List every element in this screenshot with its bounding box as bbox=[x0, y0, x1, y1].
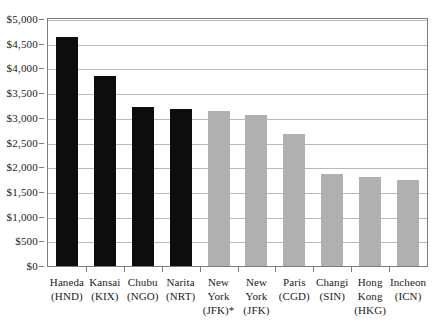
y-tick-mark bbox=[39, 192, 44, 193]
bar-slot-narita bbox=[162, 19, 200, 266]
x-axis-label-line: (JFK)* bbox=[200, 303, 238, 317]
x-axis-label-jfk: NewYork(JFK) bbox=[238, 275, 276, 317]
x-axis-label-line: Hong bbox=[351, 275, 389, 289]
x-axis-label-incheon: Incheon(ICN) bbox=[389, 275, 427, 303]
x-tick-mark bbox=[238, 267, 239, 272]
x-axis-label-kansai: Kansai(KIX) bbox=[86, 275, 124, 303]
x-axis-label-line: Paris bbox=[275, 275, 313, 289]
x-axis-label-line: (JFK) bbox=[238, 303, 276, 317]
y-tick-mark bbox=[39, 143, 44, 144]
y-tick-label: $1,500 bbox=[7, 186, 38, 198]
x-axis-label-line: (KIX) bbox=[86, 289, 124, 303]
x-tick-mark bbox=[351, 267, 352, 272]
x-axis-label-hongkong: HongKong(HKG) bbox=[351, 275, 389, 317]
y-tick-label: $3,500 bbox=[7, 87, 38, 99]
bar-jfk-star bbox=[208, 111, 230, 266]
x-axis-label-line: (HND) bbox=[48, 289, 86, 303]
y-tick-mark bbox=[39, 19, 44, 20]
bar-incheon bbox=[397, 180, 419, 266]
x-axis-label-line: (CGD) bbox=[275, 289, 313, 303]
x-axis-label-line: Incheon bbox=[389, 275, 427, 289]
x-axis-label-line: Chubu bbox=[124, 275, 162, 289]
bar-slot-chubu bbox=[124, 19, 162, 266]
bar-slot-hongkong bbox=[351, 19, 389, 266]
x-axis-ticks bbox=[48, 267, 427, 273]
x-axis-label-line: (HKG) bbox=[351, 303, 389, 317]
x-axis-label-line: (SIN) bbox=[313, 289, 351, 303]
x-axis-label-line: York bbox=[238, 289, 276, 303]
y-tick-label: $4,500 bbox=[7, 38, 38, 50]
x-axis-label-chubu: Chubu(NGO) bbox=[124, 275, 162, 303]
y-tick-label: $500 bbox=[15, 235, 38, 247]
bar-chart: $0$500$1,000$1,500$2,000$2,500$3,000$3,5… bbox=[0, 0, 438, 325]
y-tick-label: $3,000 bbox=[7, 112, 38, 124]
bar-kansai bbox=[94, 76, 116, 266]
bar-slot-jfk bbox=[238, 19, 276, 266]
x-axis-label-narita: Narita(NRT) bbox=[162, 275, 200, 303]
x-axis-label-line: Narita bbox=[162, 275, 200, 289]
x-tick-mark bbox=[389, 267, 390, 272]
x-axis-label-line: (NRT) bbox=[162, 289, 200, 303]
bar-chubu bbox=[132, 107, 154, 266]
bar-changi bbox=[321, 174, 343, 266]
x-axis-label-line: (NGO) bbox=[124, 289, 162, 303]
x-axis: Haneda(HND)Kansai(KIX)Chubu(NGO)Narita(N… bbox=[48, 275, 427, 325]
y-tick-mark bbox=[39, 118, 44, 119]
y-tick-mark bbox=[39, 167, 44, 168]
y-tick-mark bbox=[39, 68, 44, 69]
bar-slot-haneda bbox=[48, 19, 86, 266]
bar-slot-incheon bbox=[389, 19, 427, 266]
x-axis-label-paris: Paris(CGD) bbox=[275, 275, 313, 303]
x-axis-label-haneda: Haneda(HND) bbox=[48, 275, 86, 303]
y-tick-mark bbox=[39, 93, 44, 94]
bar-paris bbox=[283, 134, 305, 266]
y-tick-mark bbox=[39, 217, 44, 218]
bar-slot-paris bbox=[275, 19, 313, 266]
x-axis-label-jfk-star: NewYork(JFK)* bbox=[200, 275, 238, 317]
y-tick-label: $2,000 bbox=[7, 161, 38, 173]
bar-slot-changi bbox=[313, 19, 351, 266]
bar-narita bbox=[170, 109, 192, 266]
bars-layer bbox=[48, 19, 427, 266]
y-tick-mark bbox=[39, 44, 44, 45]
x-axis-label-line: (ICN) bbox=[389, 289, 427, 303]
bar-jfk bbox=[245, 115, 267, 266]
x-axis-label-changi: Changi(SIN) bbox=[313, 275, 351, 303]
bar-slot-jfk-star bbox=[200, 19, 238, 266]
y-tick-label: $2,500 bbox=[7, 137, 38, 149]
bar-slot-kansai bbox=[86, 19, 124, 266]
y-tick-label: $1,000 bbox=[7, 211, 38, 223]
x-tick-mark bbox=[200, 267, 201, 272]
bar-haneda bbox=[56, 37, 78, 266]
x-tick-mark bbox=[124, 267, 125, 272]
x-axis-label-line: Kong bbox=[351, 289, 389, 303]
x-axis-label-line: New bbox=[238, 275, 276, 289]
x-axis-label-line: Kansai bbox=[86, 275, 124, 289]
x-axis-label-line: York bbox=[200, 289, 238, 303]
x-tick-mark bbox=[162, 267, 163, 272]
x-tick-mark bbox=[86, 267, 87, 272]
y-tick-label: $0 bbox=[27, 260, 38, 272]
y-tick-label: $4,000 bbox=[7, 62, 38, 74]
y-tick-label: $5,000 bbox=[7, 13, 38, 25]
x-axis-label-line: Changi bbox=[313, 275, 351, 289]
y-axis: $0$500$1,000$1,500$2,000$2,500$3,000$3,5… bbox=[0, 18, 44, 267]
bar-hongkong bbox=[359, 177, 381, 266]
x-tick-mark bbox=[275, 267, 276, 272]
x-axis-label-line: New bbox=[200, 275, 238, 289]
x-tick-mark bbox=[313, 267, 314, 272]
y-tick-mark bbox=[39, 266, 44, 267]
x-axis-label-line: Haneda bbox=[48, 275, 86, 289]
y-tick-mark bbox=[39, 241, 44, 242]
